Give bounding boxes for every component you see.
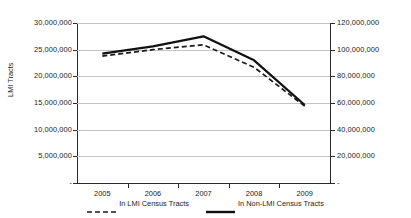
right-axis-tick-mark	[331, 23, 335, 24]
x-axis-tick-mark	[178, 184, 179, 188]
right-axis-tick-mark	[331, 130, 335, 131]
left-axis-tick-label: 30,000,000	[34, 19, 72, 26]
left-axis-tick-label: 25,000,000	[34, 46, 72, 53]
x-axis-tick-mark	[128, 184, 129, 188]
left-axis-tick-label: 5,000,000	[38, 152, 72, 159]
right-axis-tick-mark	[331, 76, 335, 77]
x-axis-line	[77, 183, 331, 184]
right-axis-labels: 120,000,000100,000,00080,000,00060,000,0…	[337, 0, 411, 218]
series-line-2	[102, 36, 304, 105]
series-line-1	[102, 45, 304, 106]
right-axis-tick-mark	[331, 50, 335, 51]
x-axis-tick-mark	[279, 184, 280, 188]
x-axis-tick-label: 2006	[127, 190, 179, 197]
right-axis-tick-label: 120,000,000	[337, 19, 379, 26]
plot-area	[77, 23, 330, 183]
line-chart: LMI Tracts 30,000,00025,000,00020,000,00…	[0, 0, 411, 218]
x-axis-tick-mark	[229, 184, 230, 188]
right-axis-tick-label: 20,000,000	[337, 152, 375, 159]
legend-item: In LMI Census Tracts	[87, 200, 189, 207]
legend-item: In Non-LMI Census Tracts	[206, 200, 324, 207]
right-axis-tick-mark	[331, 183, 335, 184]
legend-dashed-line-icon	[87, 201, 116, 207]
x-axis-tick-label: 2008	[228, 190, 280, 197]
x-axis-tick-label: 2007	[178, 190, 230, 197]
right-axis-tick-label: 100,000,000	[337, 46, 379, 53]
legend-item-label: In Non-LMI Census Tracts	[238, 200, 324, 207]
legend-item-label: In LMI Census Tracts	[119, 200, 189, 207]
left-axis-tick-label: 20,000,000	[34, 72, 72, 79]
x-axis-tick-label: 2005	[76, 190, 128, 197]
left-axis-tick-label: 15,000,000	[34, 99, 72, 106]
right-axis-tick-mark	[331, 103, 335, 104]
right-axis-tick-label: -	[337, 179, 340, 186]
series-lines	[77, 23, 330, 183]
left-axis-labels: 30,000,00025,000,00020,000,00015,000,000…	[0, 0, 72, 218]
left-axis-tick-label: 10,000,000	[34, 126, 72, 133]
right-axis-tick-mark	[331, 156, 335, 157]
right-axis-tick-label: 40,000,000	[337, 126, 375, 133]
right-axis-tick-label: 60,000,000	[337, 99, 375, 106]
left-axis-tick-mark	[73, 183, 77, 184]
chart-legend: In LMI Census TractsIn Non-LMI Census Tr…	[0, 200, 411, 207]
legend-solid-line-icon	[206, 201, 235, 207]
right-axis-tick-label: 80,000,000	[337, 72, 375, 79]
x-axis-tick-label: 2009	[279, 190, 331, 197]
left-axis-tick-label: -	[69, 179, 72, 186]
